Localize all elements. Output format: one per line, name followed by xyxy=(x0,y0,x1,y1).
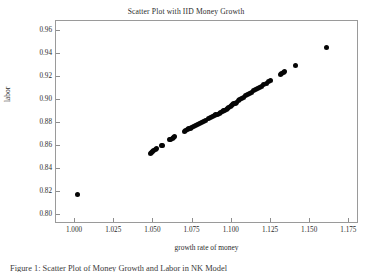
x-axis-tick xyxy=(309,218,310,222)
scatter-point xyxy=(293,63,298,68)
x-axis-tick-label: 1.175 xyxy=(340,226,356,234)
y-axis-tick xyxy=(56,214,60,215)
y-axis-tick-label: 0.80 xyxy=(39,210,52,218)
x-axis-tick xyxy=(192,218,193,222)
x-axis-tick xyxy=(74,218,75,222)
plot-area: 0.800.820.840.860.880.900.920.940.961.00… xyxy=(55,20,358,223)
y-axis-tick-label: 0.82 xyxy=(39,187,52,195)
y-axis-tick xyxy=(56,191,60,192)
y-axis-tick xyxy=(56,76,60,77)
y-axis-label: labor xyxy=(3,87,12,102)
scatter-point xyxy=(172,134,177,139)
x-axis-tick-label: 1.125 xyxy=(262,226,278,234)
x-axis-tick-label: 1.150 xyxy=(301,226,317,234)
chart-title: Scatter Plot with IID Money Growth xyxy=(0,7,372,16)
x-axis-tick xyxy=(113,218,114,222)
x-axis-tick-label: 1.025 xyxy=(105,226,121,234)
y-axis-tick xyxy=(56,53,60,54)
scatter-point xyxy=(154,146,159,151)
y-axis-tick-label: 0.84 xyxy=(39,164,52,172)
scatter-plot-figure: Scatter Plot with IID Money Growth 0.800… xyxy=(0,0,372,272)
x-axis-tick-label: 1.000 xyxy=(66,226,82,234)
x-axis-tick-label: 1.100 xyxy=(223,226,239,234)
y-axis-tick-label: 0.94 xyxy=(39,49,52,57)
y-axis-tick-label: 0.96 xyxy=(39,26,52,34)
y-axis-tick-label: 0.88 xyxy=(39,118,52,126)
x-axis-label: growth rate of money xyxy=(55,243,358,252)
scatter-point xyxy=(75,192,80,197)
x-axis-tick xyxy=(348,218,349,222)
scatter-point xyxy=(268,78,273,83)
scatter-point xyxy=(160,143,165,148)
x-axis-tick xyxy=(231,218,232,222)
x-axis-tick-label: 1.075 xyxy=(184,226,200,234)
x-axis-tick xyxy=(152,218,153,222)
data-points-layer xyxy=(56,21,357,222)
y-axis-tick xyxy=(56,145,60,146)
x-axis-tick xyxy=(270,218,271,222)
scatter-point xyxy=(282,69,287,74)
y-axis-tick-label: 0.90 xyxy=(39,95,52,103)
y-axis-tick-label: 0.92 xyxy=(39,72,52,80)
y-axis-tick-label: 0.86 xyxy=(39,141,52,149)
y-axis-tick xyxy=(56,30,60,31)
figure-caption: Figure 1: Scatter Plot of Money Growth a… xyxy=(10,264,372,272)
y-axis-tick xyxy=(56,99,60,100)
scatter-point xyxy=(324,45,329,50)
x-axis-tick-label: 1.050 xyxy=(144,226,160,234)
y-axis-tick xyxy=(56,122,60,123)
y-axis-tick xyxy=(56,168,60,169)
